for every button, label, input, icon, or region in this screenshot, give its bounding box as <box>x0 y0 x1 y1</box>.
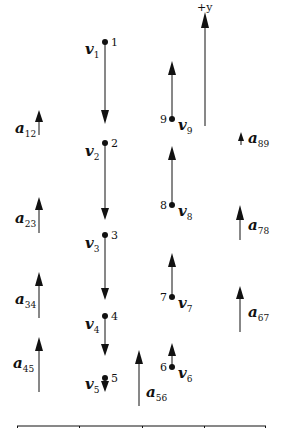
svg-text:v9: v9 <box>178 116 193 136</box>
svg-text:7: 7 <box>160 291 167 304</box>
point-3: 3 v3 <box>85 229 118 300</box>
point-8: 8 v8 <box>160 146 193 222</box>
svg-text:v1: v1 <box>85 40 99 60</box>
point-7: 7 v7 <box>160 253 193 314</box>
axis-label: +y <box>197 1 213 14</box>
point-4: 4 v4 <box>85 310 118 356</box>
arrowhead-icon <box>201 12 209 28</box>
svg-text:a23: a23 <box>15 209 36 229</box>
accel-67: a67 <box>236 286 269 332</box>
svg-text:a12: a12 <box>15 119 36 139</box>
svg-text:3: 3 <box>111 229 118 242</box>
motion-diagram: +y 1 v1 2 v2 3 v3 4 v4 5 v5 <box>0 0 281 428</box>
svg-text:v4: v4 <box>85 315 100 335</box>
accel-89: a89 <box>238 129 269 149</box>
svg-text:v5: v5 <box>85 375 100 395</box>
point-9: 9 v9 <box>160 61 193 136</box>
point-2: 2 v2 <box>85 137 118 220</box>
svg-text:9: 9 <box>160 113 167 126</box>
accel-34: a34 <box>15 272 43 318</box>
svg-text:v3: v3 <box>85 234 100 254</box>
svg-text:5: 5 <box>111 372 118 385</box>
point-5: 5 v5 <box>85 372 118 395</box>
svg-text:a45: a45 <box>13 354 34 374</box>
svg-text:1: 1 <box>111 36 118 49</box>
point-6: 6 v6 <box>160 343 193 384</box>
svg-text:v7: v7 <box>178 294 193 314</box>
accel-12: a12 <box>15 110 43 139</box>
svg-text:a67: a67 <box>248 303 269 323</box>
svg-text:a89: a89 <box>248 129 269 149</box>
svg-text:v2: v2 <box>85 142 99 162</box>
y-axis: +y <box>197 1 213 126</box>
svg-text:v6: v6 <box>178 364 193 384</box>
point-1: 1 v1 <box>85 36 118 124</box>
svg-text:a56: a56 <box>146 383 167 403</box>
accel-56: a56 <box>135 350 167 406</box>
svg-text:v8: v8 <box>178 202 193 222</box>
svg-text:6: 6 <box>160 361 167 374</box>
accel-45: a45 <box>13 337 43 392</box>
svg-text:8: 8 <box>160 199 167 212</box>
svg-text:a78: a78 <box>248 216 269 236</box>
accel-23: a23 <box>15 197 43 233</box>
svg-text:4: 4 <box>111 310 118 323</box>
accel-78: a78 <box>236 205 269 240</box>
svg-text:2: 2 <box>111 137 118 150</box>
svg-text:a34: a34 <box>15 290 36 310</box>
